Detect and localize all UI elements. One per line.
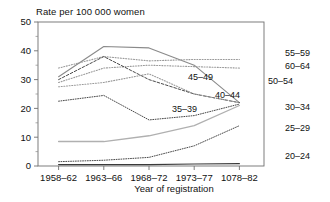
series-label-25-29: 25–29	[285, 123, 310, 133]
series-line-25-29	[59, 126, 240, 162]
series-label-60-64: 60–64	[285, 61, 310, 71]
x-axis-title-text: Year of registration	[134, 183, 213, 194]
series-line-20-24	[59, 164, 240, 165]
series-label-35-39: 35–39	[172, 104, 197, 114]
chart-series-group	[59, 46, 240, 164]
y-tick-label: 10	[20, 132, 31, 143]
y-tick-label: 50	[20, 16, 31, 27]
x-tick-label: 1078–82	[221, 172, 258, 183]
series-label-55-59: 55–59	[285, 48, 310, 58]
x-tick-label: 1968–72	[131, 172, 168, 183]
y-tick-label: 20	[20, 103, 31, 114]
series-label-20-24: 20–24	[285, 151, 310, 161]
y-tick-label: 30	[20, 74, 31, 85]
series-label-30-34: 30–34	[285, 102, 310, 112]
series-label-40-44: 40–44	[215, 90, 240, 100]
x-tick-label: 1973–77	[176, 172, 213, 183]
x-tick-label: 1958–62	[40, 172, 77, 183]
x-tick-label: 1963–66	[85, 172, 122, 183]
chart-x-tick-labels: 1958–621963–661968–721973–771078–82	[40, 172, 258, 183]
y-tick-label: 40	[20, 45, 31, 56]
chart-x-axis-title: Year of registration	[0, 183, 330, 194]
chart-y-tick-labels: 01020304050	[20, 16, 31, 171]
series-label-45-49: 45–49	[188, 72, 213, 82]
series-line-35-39	[59, 95, 240, 119]
y-tick-label: 0	[26, 160, 31, 171]
chart-plot-area: 50–5455–5960–6445–4940–4435–3930–3425–29…	[0, 0, 330, 202]
series-label-50-54: 50–54	[268, 76, 293, 86]
chart-figure: Rate per 100 000 women 50–5455–5960–6445…	[0, 0, 330, 202]
